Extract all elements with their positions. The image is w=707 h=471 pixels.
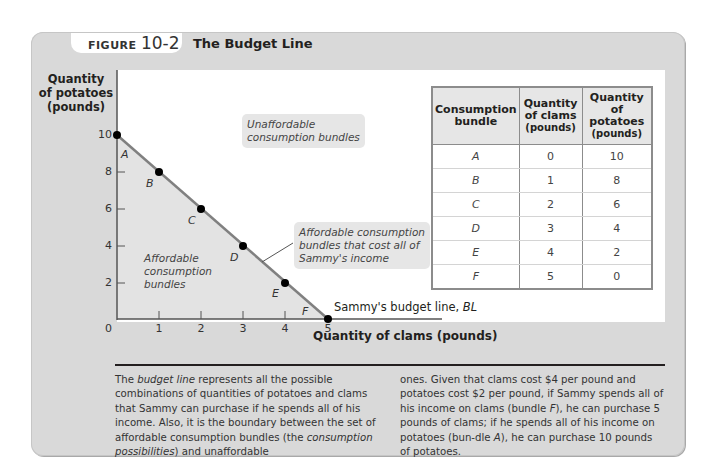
cell-bundle: E <box>432 241 519 265</box>
callout-line: Affordable <box>144 252 212 265</box>
y-tick-4: 4 <box>92 239 112 252</box>
callout-line: bundles that cost all of <box>299 239 425 252</box>
x-tick-3: 3 <box>236 322 250 335</box>
point-label-f: F <box>302 305 308 318</box>
table-row: D 3 4 <box>432 217 652 241</box>
caption-right: ones. Given that clams cost $4 per pound… <box>400 373 664 459</box>
cell-clams: 0 <box>519 145 582 169</box>
unaffordable-callout: Unaffordable consumption bundles <box>242 114 365 148</box>
cell-clams: 2 <box>519 193 582 217</box>
caption-left: The budget line represents all the possi… <box>115 373 379 459</box>
y-tick-8: 8 <box>92 165 112 178</box>
point-b <box>155 168 163 176</box>
y-tick-6: 6 <box>92 202 112 215</box>
cell-clams: 5 <box>519 265 582 290</box>
cell-potatoes: 8 <box>582 169 652 193</box>
consumption-bundle-table: Consumption bundle Quantity of clams (po… <box>431 86 653 290</box>
cell-bundle: D <box>432 217 519 241</box>
cell-potatoes: 6 <box>582 193 652 217</box>
table-header-row: Consumption bundle Quantity of clams (po… <box>432 87 652 145</box>
header-line: of clams <box>522 110 580 122</box>
cell-clams: 1 <box>519 169 582 193</box>
cell-potatoes: 2 <box>582 241 652 265</box>
cell-potatoes: 0 <box>582 265 652 290</box>
table-row: E 4 2 <box>432 241 652 265</box>
point-label-d: D <box>230 251 238 264</box>
caption-emphasis: budget line <box>137 374 195 385</box>
x-tick-4: 4 <box>278 322 292 335</box>
callout-line: consumption bundles <box>247 131 360 144</box>
table-row: C 2 6 <box>432 193 652 217</box>
caption-divider <box>115 364 665 366</box>
affordable-label: Affordable consumption bundles <box>144 252 212 291</box>
caption-text: The <box>115 374 137 385</box>
cell-bundle: F <box>432 265 519 290</box>
x-tick-1: 1 <box>152 322 166 335</box>
point-a <box>113 131 121 139</box>
callout-line: Unaffordable <box>247 118 360 131</box>
table-row: B 1 8 <box>432 169 652 193</box>
budget-line-label-text: Sammy's budget line, <box>334 300 463 314</box>
callout-line: Affordable consumption <box>299 226 425 239</box>
point-label-a: A <box>121 148 129 161</box>
table-row: F 5 0 <box>432 265 652 290</box>
cell-bundle: C <box>432 193 519 217</box>
point-label-b: B <box>146 177 154 190</box>
cell-bundle: B <box>432 169 519 193</box>
cell-bundle: A <box>432 145 519 169</box>
header-line: (pounds) <box>585 128 649 140</box>
header-line: (pounds) <box>522 122 580 134</box>
header-line: bundle <box>435 116 517 128</box>
caption-text: ) and unaffordable <box>175 446 269 457</box>
point-d <box>239 242 247 250</box>
y-tick-2: 2 <box>92 276 112 289</box>
callout-line: Sammy's income <box>299 252 425 265</box>
point-label-e: E <box>272 287 279 300</box>
cell-potatoes: 4 <box>582 217 652 241</box>
y-tick-10: 10 <box>92 128 112 141</box>
budget-line-symbol: BL <box>463 300 477 314</box>
caption-emphasis: A <box>494 432 501 443</box>
budget-line-label: Sammy's budget line, BL <box>334 300 477 314</box>
table-row: A 0 10 <box>432 145 652 169</box>
header-clams: Quantity of clams (pounds) <box>519 87 582 145</box>
cell-clams: 4 <box>519 241 582 265</box>
cell-clams: 3 <box>519 217 582 241</box>
callout-line: bundles <box>144 278 212 291</box>
header-potatoes: Quantity of potatoes (pounds) <box>582 87 652 145</box>
point-c <box>197 205 205 213</box>
on-line-callout: Affordable consumption bundles that cost… <box>294 222 430 269</box>
point-label-c: C <box>188 214 196 227</box>
header-bundle: Consumption bundle <box>432 87 519 145</box>
cell-potatoes: 10 <box>582 145 652 169</box>
x-axis-label: Quantity of clams (pounds) <box>313 329 497 343</box>
point-e <box>281 279 289 287</box>
header-line: of potatoes <box>585 104 649 128</box>
callout-leader-line <box>262 243 293 262</box>
callout-line: consumption <box>144 265 212 278</box>
origin-tick-0: 0 <box>92 322 112 335</box>
x-tick-2: 2 <box>194 322 208 335</box>
